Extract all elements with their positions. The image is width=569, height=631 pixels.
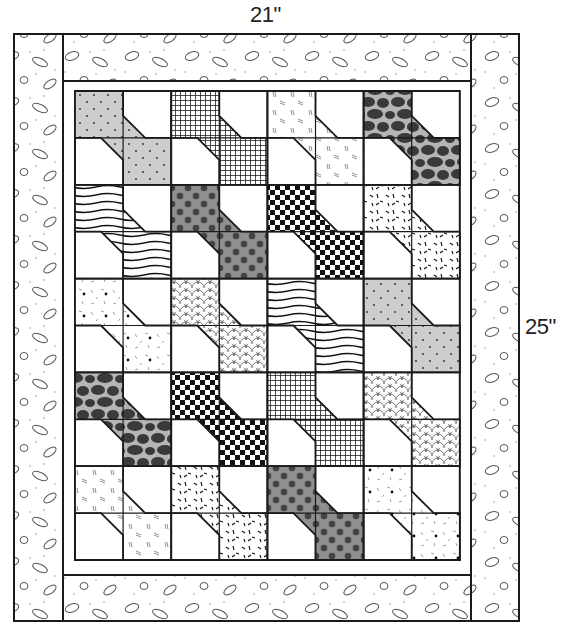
quilt-diagram [0, 0, 569, 631]
bow-tie-blocks [75, 91, 460, 560]
